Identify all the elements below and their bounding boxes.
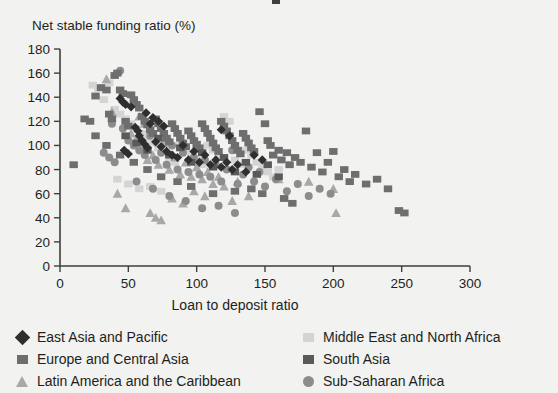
data-point	[400, 210, 408, 217]
legend-label: Sub-Saharan Africa	[323, 373, 444, 389]
triangle-marker-icon	[14, 373, 30, 389]
legend-label: Europe and Central Asia	[37, 351, 189, 367]
data-point	[244, 191, 254, 200]
data-point	[340, 166, 348, 173]
data-point	[227, 196, 237, 205]
data-point	[174, 166, 182, 174]
data-point	[304, 177, 314, 186]
legend-item-europe-and-central-asia[interactable]: Europe and Central Asia	[14, 348, 241, 370]
legend-label: East Asia and Pacific	[37, 329, 168, 345]
data-point	[163, 161, 171, 169]
data-point	[288, 200, 296, 207]
circle-marker-icon	[300, 373, 316, 389]
data-point	[165, 192, 173, 200]
data-point	[280, 195, 288, 202]
x-tick-label: 200	[322, 276, 345, 291]
y-tick-label: 20	[35, 235, 50, 250]
data-point	[285, 161, 293, 168]
data-point	[307, 164, 315, 171]
data-point	[86, 118, 94, 125]
scatter-plot-canvas: 0204060801001201401601800501001502002503…	[0, 0, 558, 300]
x-tick-label: 100	[185, 276, 208, 291]
data-point	[113, 189, 123, 198]
data-point	[217, 178, 225, 186]
data-point	[135, 105, 143, 112]
legend-item-middle-east-and-north-africa[interactable]: Middle East and North Africa	[300, 326, 500, 348]
data-point	[247, 185, 255, 192]
data-point	[255, 108, 263, 115]
legend-column-left: East Asia and Pacific Europe and Central…	[14, 326, 241, 392]
data-point	[91, 132, 99, 139]
data-point	[108, 116, 116, 123]
data-point	[149, 185, 157, 193]
data-point	[261, 182, 269, 190]
data-point	[313, 149, 321, 156]
legend-label: South Asia	[323, 351, 390, 367]
data-point	[195, 170, 203, 178]
data-point	[209, 190, 217, 197]
data-point	[200, 191, 210, 200]
y-tick-label: 140	[27, 90, 50, 105]
data-point	[231, 188, 239, 195]
data-point	[250, 178, 258, 186]
data-point	[316, 185, 324, 193]
data-point	[102, 142, 110, 149]
data-point	[266, 142, 274, 149]
data-point	[242, 159, 250, 166]
data-point	[124, 181, 132, 188]
data-point	[182, 197, 190, 205]
data-point	[187, 183, 195, 190]
y-tick-label: 40	[35, 211, 50, 226]
data-point	[130, 159, 138, 166]
data-point	[302, 128, 310, 135]
data-point	[91, 93, 99, 100]
data-point	[305, 192, 313, 200]
y-tick-label: 100	[27, 138, 50, 153]
data-point	[362, 181, 370, 188]
data-point	[102, 74, 112, 83]
chart-figure: Net stable funding ratio (%) 02040608010…	[0, 0, 558, 393]
data-point	[206, 173, 214, 181]
legend-item-east-asia-and-pacific[interactable]: East Asia and Pacific	[14, 326, 241, 348]
data-point	[102, 87, 110, 94]
data-point	[135, 185, 143, 192]
data-point	[274, 166, 282, 173]
data-point	[145, 208, 155, 217]
data-point	[143, 166, 151, 173]
legend-item-latin-america-and-the-caribbean[interactable]: Latin America and the Caribbean	[14, 370, 241, 392]
data-point	[121, 132, 129, 139]
x-tick-label: 50	[121, 276, 136, 291]
x-tick-label: 150	[254, 276, 277, 291]
data-point	[133, 178, 141, 186]
tick-label-layer: 0204060801001201401601800501001502002503…	[27, 42, 481, 291]
data-point	[373, 176, 381, 183]
data-point	[346, 178, 354, 185]
data-point	[264, 161, 272, 168]
data-point	[261, 120, 269, 127]
legend-item-south-asia[interactable]: South Asia	[300, 348, 500, 370]
data-point	[236, 150, 244, 157]
data-point	[69, 161, 77, 168]
data-point	[113, 70, 121, 77]
data-point	[274, 173, 282, 180]
y-tick-label: 160	[27, 66, 50, 81]
y-tick-label: 120	[27, 114, 50, 129]
legend-item-sub-saharan-africa[interactable]: Sub-Saharan Africa	[300, 370, 500, 392]
data-point	[294, 180, 302, 188]
x-axis-title: Loan to deposit ratio	[0, 297, 470, 313]
data-point	[324, 159, 332, 166]
data-point	[100, 96, 108, 103]
data-point	[152, 156, 160, 164]
data-point	[331, 208, 341, 217]
data-point	[157, 173, 165, 180]
x-tick-label: 250	[390, 276, 413, 291]
data-point	[234, 180, 242, 188]
x-tick-label: 300	[459, 276, 482, 291]
data-point	[214, 148, 222, 155]
data-point	[215, 202, 223, 210]
data-point	[231, 209, 239, 217]
data-point	[351, 171, 359, 178]
chart-legend: East Asia and Pacific Europe and Central…	[0, 326, 558, 393]
x-tick-label: 0	[56, 276, 64, 291]
legend-column-right: Middle East and North Africa South Asia …	[300, 326, 500, 392]
